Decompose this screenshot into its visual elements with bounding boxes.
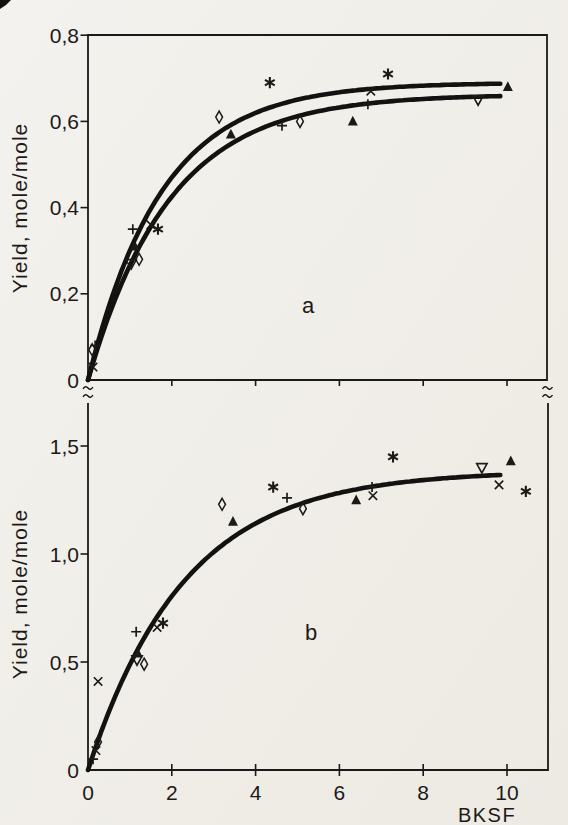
scanned-figure-page: 00,20,40,60,8Yield, mole/molea024681000,… (0, 0, 568, 825)
panel-a-letter: a (302, 293, 315, 318)
panel-b-y-tick-label: 1,0 (50, 543, 79, 566)
panel-b-x-tick-label: 0 (82, 781, 94, 804)
x-axis-title-bksf: BKSF (458, 804, 516, 825)
panel-a-y-tick-label: 0,2 (50, 282, 79, 305)
two-panel-yield-vs-bksf-figure: 00,20,40,60,8Yield, mole/molea024681000,… (0, 0, 568, 825)
panel-a-y-tick-label: 0,4 (50, 196, 80, 219)
panel-b-y-tick-label: 0 (67, 759, 79, 782)
panel-a-y-tick-label: 0,6 (50, 110, 79, 133)
panel-b-x-tick-label: 4 (250, 781, 262, 804)
panel-b-x-tick-label: 6 (334, 781, 346, 804)
panel-a-y-axis-title: Yield, mole/mole (8, 123, 31, 293)
panel-b-x-tick-label: 2 (166, 781, 178, 804)
panel-b-y-tick-label: 1,5 (50, 435, 79, 458)
panel-b-y-axis-title: Yield, mole/mole (8, 509, 31, 679)
paper-background (0, 0, 568, 825)
panel-b-letter: b (305, 620, 317, 645)
panel-a-y-tick-label: 0 (67, 369, 79, 392)
panel-b-x-tick-label: 8 (417, 781, 429, 804)
panel-b-x-tick-label: 10 (495, 781, 518, 804)
panel-b-y-tick-label: 0,5 (50, 651, 79, 674)
panel-a-y-tick-label: 0,8 (50, 24, 79, 47)
figure-canvas: 00,20,40,60,8Yield, mole/molea024681000,… (0, 0, 568, 825)
